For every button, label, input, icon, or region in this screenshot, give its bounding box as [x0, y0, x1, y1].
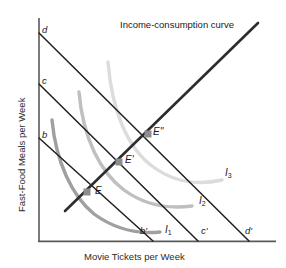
indifference-curves-group [52, 62, 222, 232]
budget-label-c-prime: c' [201, 226, 208, 236]
budget-label-d: d [42, 25, 47, 35]
indifference-curve-label-i1: I1 [165, 225, 172, 235]
income-consumption-curve-label: Income-consumption curve [120, 20, 234, 30]
equilibrium-marker-e-prime [116, 159, 123, 166]
budget-label-b: b [42, 130, 47, 140]
indifference-curve-label-i3: I3 [225, 168, 232, 178]
income-consumption-curve-group [65, 23, 258, 211]
equilibrium-label-e: E [95, 186, 102, 196]
indifference-curve-label-i2: I2 [199, 196, 206, 206]
y-axis-title: Fast-Food Meals per Week [16, 98, 27, 212]
y-axis-title-wrapper: Fast-Food Meals per Week [0, 0, 22, 240]
equilibrium-label-e-prime: E' [125, 155, 134, 165]
i3-subscript: 3 [228, 172, 232, 179]
i2-subscript: 2 [202, 200, 206, 207]
income-consumption-curve-figure: Income-consumption curve d c b b' c' d' … [0, 0, 286, 268]
budget-label-c: c [42, 76, 47, 86]
budget-label-d-prime: d' [245, 226, 252, 236]
x-axis-title: Movie Tickets per Week [84, 252, 185, 262]
income-consumption-curve-line [65, 23, 258, 211]
budget-label-b-prime: b' [140, 226, 147, 236]
equilibrium-marker-e-double-prime [145, 131, 152, 138]
equilibrium-marker-e [84, 189, 91, 196]
equilibrium-label-e-double-prime: E'' [153, 127, 164, 137]
i1-subscript: 1 [168, 229, 172, 236]
